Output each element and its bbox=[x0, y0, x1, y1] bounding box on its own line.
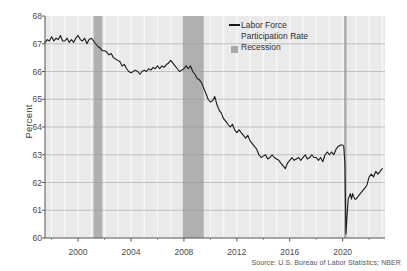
y-tick-label: 67 bbox=[14, 40, 42, 49]
chart-figure: 606162636465666768 200020042008201220162… bbox=[0, 0, 407, 271]
source-note: Source: U.S. Bureau of Labor Statistics;… bbox=[251, 259, 401, 266]
x-tick-label: 2020 bbox=[323, 248, 363, 257]
x-tick-label: 2004 bbox=[111, 248, 151, 257]
chart-legend: Labor Force Participation Rate Recession bbox=[228, 20, 308, 54]
y-tick-label: 66 bbox=[14, 68, 42, 77]
x-tick-label: 2008 bbox=[164, 248, 204, 257]
x-tick-label: 2012 bbox=[217, 248, 257, 257]
legend-label-series: Labor Force Participation Rate bbox=[241, 20, 308, 41]
y-tick-label: 61 bbox=[14, 206, 42, 215]
line-marker-icon bbox=[228, 20, 241, 26]
x-tick-label: 2000 bbox=[58, 248, 98, 257]
legend-label-recession: Recession bbox=[241, 42, 281, 53]
x-tick-label: 2016 bbox=[270, 248, 310, 257]
x-axis-ticks: 200020042008201220162020 bbox=[0, 241, 407, 257]
chart-plot-area bbox=[0, 0, 407, 271]
legend-item-recession: Recession bbox=[228, 42, 308, 53]
legend-item-series: Labor Force Participation Rate bbox=[228, 20, 308, 41]
swatch-marker-icon bbox=[228, 42, 241, 53]
y-axis-title: Percent bbox=[23, 82, 34, 162]
y-tick-label: 68 bbox=[14, 12, 42, 21]
y-tick-label: 62 bbox=[14, 179, 42, 188]
